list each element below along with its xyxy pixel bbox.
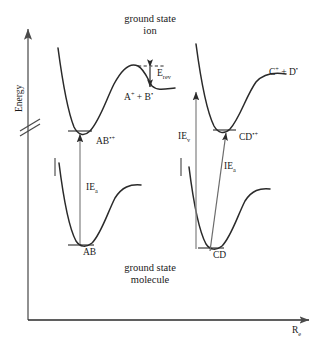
- title-ground-state-ion: ground state ion: [97, 13, 203, 37]
- label-products-right: C+ + D•: [269, 65, 298, 78]
- transition-arrow-iea-right: [210, 133, 226, 251]
- curve-ab-neutral: [59, 163, 141, 246]
- curve-cd-neutral: [189, 167, 270, 249]
- curve-ab-ion: [58, 48, 175, 134]
- label-iea-left: IEa: [86, 182, 98, 194]
- title-ground-state-molecule: ground state molecule: [97, 262, 203, 286]
- axis-break-mark: [20, 119, 40, 136]
- label-ab-ion: AB•+: [96, 134, 115, 147]
- title-molecule-line2: molecule: [97, 274, 203, 286]
- title-ion-line2: ion: [97, 25, 203, 37]
- title-ion-line1: ground state: [97, 13, 203, 25]
- curve-cd-ion: [196, 44, 286, 133]
- label-iea-right: IEa: [224, 161, 236, 173]
- axis-tick-marks: [55, 158, 181, 176]
- label-products-left: A+ + B•: [124, 90, 153, 103]
- y-axis-label: Energy: [14, 85, 25, 112]
- diagram-canvas: [0, 0, 329, 345]
- label-cd-neutral: CD: [213, 250, 226, 261]
- label-e-rev: Erev: [157, 68, 171, 80]
- label-cd-ion: CD•+: [239, 130, 258, 143]
- potential-energy-diagram: Energy Re ground state ion ground state …: [0, 0, 329, 345]
- x-axis-label: Re: [292, 325, 301, 337]
- label-ab-neutral: AB: [83, 247, 96, 258]
- title-molecule-line1: ground state: [97, 262, 203, 274]
- label-iev-right: IEv: [178, 131, 190, 143]
